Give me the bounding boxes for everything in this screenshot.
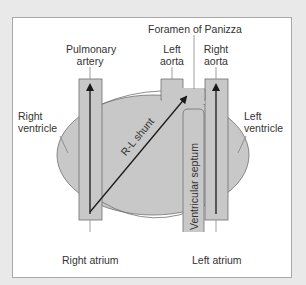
label-ventricular-septum: Ventricular septum bbox=[188, 143, 200, 230]
label-pulmonary-artery: Pulmonary artery bbox=[66, 43, 114, 67]
label-left-aorta: Left aorta bbox=[152, 43, 192, 67]
label-right-ventricle: Right ventricle bbox=[18, 110, 57, 134]
label-left-atrium: Left atrium bbox=[192, 254, 242, 266]
label-foramen-of-panizza: Foramen of Panizza bbox=[148, 23, 242, 35]
label-right-aorta: Right aorta bbox=[196, 43, 236, 67]
label-right-atrium: Right atrium bbox=[62, 254, 119, 266]
label-left-ventricle: Left ventricle bbox=[244, 110, 283, 134]
